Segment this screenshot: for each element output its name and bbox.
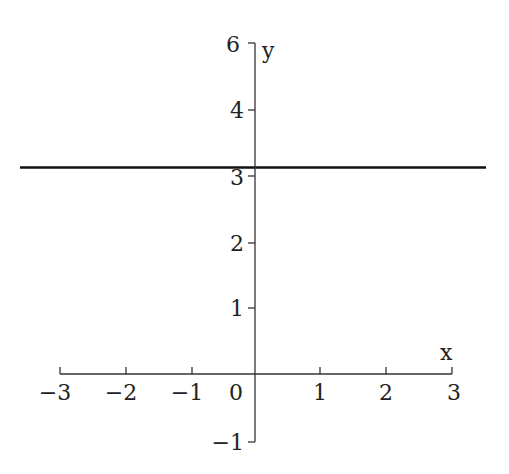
x-tick-1: 1 (313, 380, 327, 405)
x-tick-2: 2 (379, 380, 393, 405)
x-tick-3: 3 (447, 380, 461, 405)
y-tick-3: 3 (230, 165, 244, 190)
chart: 6 4 3 2 1 −1 −3 −2 −1 0 1 2 3 y x (0, 0, 509, 474)
x-axis (60, 367, 452, 374)
x-tick-0: 0 (229, 380, 243, 405)
y-tick-6: 6 (226, 32, 240, 57)
x-tick-minus-2: −2 (105, 380, 137, 405)
y-axis-label: y (261, 38, 275, 63)
x-axis-label: x (440, 340, 453, 365)
y-axis (248, 43, 255, 442)
y-tick-minus-1: −1 (212, 430, 244, 455)
y-tick-1: 1 (230, 296, 244, 321)
y-tick-4: 4 (230, 98, 244, 123)
y-tick-2: 2 (230, 231, 244, 256)
x-tick-minus-1: −1 (171, 380, 203, 405)
x-tick-minus-3: −3 (39, 380, 71, 405)
